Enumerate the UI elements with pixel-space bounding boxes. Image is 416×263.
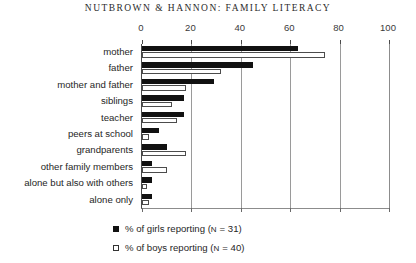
y-category-label: father — [0, 60, 138, 76]
bar-group — [142, 110, 389, 126]
y-category-label: peers at school — [0, 126, 138, 142]
x-tick-label: 0 — [138, 22, 143, 33]
bar-boys — [142, 85, 186, 90]
bar-boys — [142, 200, 149, 205]
bar-group — [142, 44, 389, 60]
y-category-label: siblings — [0, 93, 138, 109]
y-category-label: alone only — [0, 192, 138, 208]
axis-tick-bottom — [340, 208, 341, 212]
bar-group — [142, 77, 389, 93]
bar-boys — [142, 69, 221, 74]
running-head: NUTBROWN & HANNON: FAMILY LITERACY — [0, 3, 416, 13]
y-category-label: other family members — [0, 159, 138, 175]
axis-tick-top — [389, 40, 390, 44]
axis-tick-bottom — [241, 208, 242, 212]
y-category-label: mother and father — [0, 77, 138, 93]
bar-boys — [142, 52, 325, 57]
x-tick-label: 60 — [284, 22, 295, 33]
bar-girls — [142, 128, 159, 133]
bar-girls — [142, 194, 152, 199]
axis-tick-bottom — [191, 208, 192, 212]
bar-group — [142, 175, 389, 191]
y-category-label: teacher — [0, 110, 138, 126]
legend-swatch-filled — [113, 226, 119, 232]
bar-boys — [142, 167, 167, 172]
x-tick-label: 100 — [380, 22, 396, 33]
bar-group — [142, 142, 389, 158]
bar-girls — [142, 62, 253, 67]
legend-item: % of boys reporting (N = 40) — [113, 238, 363, 257]
axis-tick-bottom — [290, 208, 291, 212]
axis-tick-bottom — [142, 208, 143, 212]
legend: % of girls reporting (N = 31)% of boys r… — [113, 219, 363, 257]
y-category-label: grandparents — [0, 142, 138, 158]
legend-item: % of girls reporting (N = 31) — [113, 219, 363, 238]
bar-group — [142, 60, 389, 76]
bar-group — [142, 159, 389, 175]
bar-girls — [142, 177, 152, 182]
bar-girls — [142, 144, 167, 149]
bar-girls — [142, 46, 298, 51]
legend-label: % of girls reporting (N = 31) — [125, 223, 242, 234]
bar-group — [142, 192, 389, 208]
bar-boys — [142, 151, 186, 156]
bar-group — [142, 93, 389, 109]
bar-series-container — [142, 44, 389, 208]
bar-boys — [142, 134, 149, 139]
bar-girls — [142, 112, 184, 117]
bar-boys — [142, 102, 172, 107]
figure-chart: NUTBROWN & HANNON: FAMILY LITERACY 02040… — [0, 0, 416, 263]
bar-group — [142, 126, 389, 142]
x-axis-tick-labels: 020406080100 — [0, 22, 416, 35]
plot-area — [141, 44, 390, 209]
x-tick-label: 80 — [333, 22, 344, 33]
bar-girls — [142, 95, 184, 100]
axis-tick-bottom — [389, 208, 390, 212]
x-tick-label: 40 — [235, 22, 246, 33]
y-category-label: mother — [0, 44, 138, 60]
bar-girls — [142, 161, 152, 166]
legend-swatch-hollow — [113, 245, 119, 251]
bar-boys — [142, 184, 147, 189]
y-axis-category-labels: motherfathermother and fathersiblingstea… — [0, 44, 138, 208]
legend-label: % of boys reporting (N = 40) — [125, 242, 244, 253]
y-category-label: alone but also with others — [0, 175, 138, 191]
bar-boys — [142, 118, 177, 123]
x-tick-label: 20 — [185, 22, 196, 33]
bar-girls — [142, 79, 214, 84]
